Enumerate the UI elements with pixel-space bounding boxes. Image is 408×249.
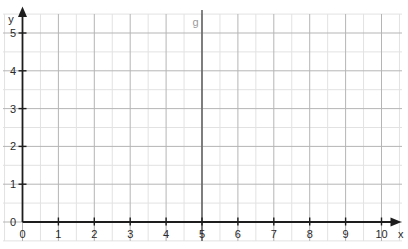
- x-axis-tick-label: 3: [127, 228, 133, 240]
- x-axis-tick-label: 2: [91, 228, 97, 240]
- y-axis-tick-label: 2: [10, 140, 16, 152]
- x-axis-tick-label: 9: [343, 228, 349, 240]
- y-axis-tick-label: 5: [10, 27, 16, 39]
- y-axis-label: y: [8, 13, 14, 25]
- x-axis-tick-label: 4: [163, 228, 169, 240]
- x-axis-label: x: [398, 228, 404, 240]
- y-axis-arrow-icon: [18, 7, 27, 18]
- y-axis-tick-label: 0: [10, 216, 16, 228]
- x-axis-tick-label: 8: [307, 228, 313, 240]
- graph-figure: g012345678910012345xy: [0, 0, 408, 249]
- x-axis-tick-label: 5: [199, 228, 205, 240]
- x-axis-tick-label: 1: [55, 228, 61, 240]
- y-axis-tick-label: 4: [10, 65, 16, 77]
- x-axis-tick-label: 7: [271, 228, 277, 240]
- y-axis-tick-label: 1: [10, 178, 16, 190]
- y-axis-tick-label: 3: [10, 103, 16, 115]
- x-axis-tick-label: 6: [235, 228, 241, 240]
- x-axis-tick-label: 0: [19, 228, 25, 240]
- coordinate-grid: g012345678910012345xy: [0, 0, 408, 249]
- line-g-label: g: [192, 16, 198, 28]
- x-axis-tick-label: 10: [375, 228, 387, 240]
